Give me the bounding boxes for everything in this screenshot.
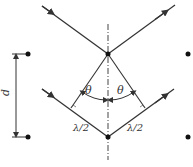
atom	[186, 52, 191, 57]
arrow-icon	[155, 12, 166, 20]
theta-label-left: θ	[85, 84, 92, 97]
path-label-right: λ/2	[126, 122, 143, 133]
arrow-icon	[42, 89, 52, 96]
arrow-icon	[155, 95, 166, 103]
atom	[26, 52, 31, 57]
arrow-icon	[42, 6, 52, 13]
atom	[106, 135, 111, 140]
theta-label-right: θ	[117, 84, 124, 97]
path-label-left: λ/2	[72, 122, 89, 133]
spacing-label: d	[0, 89, 12, 96]
incident-ray-top	[42, 6, 108, 54]
atom	[26, 135, 31, 140]
bragg-diagram: d θ θ λ/2 λ/2	[0, 0, 193, 167]
atom	[186, 135, 191, 140]
atom	[106, 52, 111, 57]
